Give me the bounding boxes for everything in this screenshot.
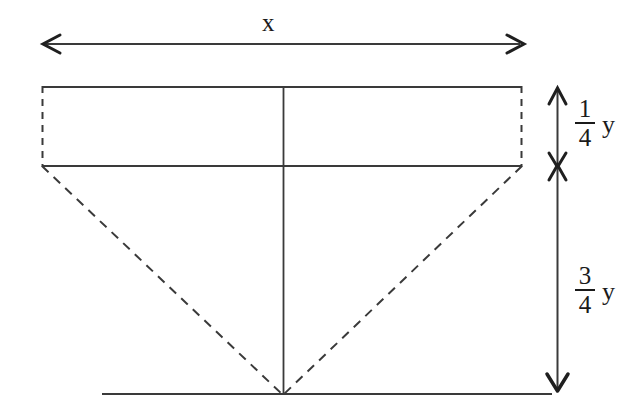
width-dimension-arrow (43, 35, 524, 53)
diagram-canvas: x 1 4 y 3 4 y (0, 0, 640, 420)
width-label-x: x (262, 10, 275, 35)
lower-height-label: 3 4 y (575, 263, 615, 317)
upper-rectangle (42, 86, 522, 167)
triangle-right-side-dashed (283, 166, 522, 395)
diagram-vector-layer (0, 0, 640, 420)
fraction-denominator: 4 (577, 291, 594, 317)
lower-height-variable: y (602, 279, 615, 305)
upper-height-label: 1 4 y (575, 96, 615, 150)
fraction-numerator: 1 (577, 96, 594, 122)
fraction-one-quarter: 1 4 (575, 96, 595, 150)
lower-height-dimension-arrow (547, 165, 568, 392)
fraction-numerator: 3 (577, 263, 594, 289)
fraction-denominator: 4 (577, 124, 594, 150)
inverted-triangle (42, 166, 522, 395)
upper-height-dimension-arrow (549, 88, 566, 167)
triangle-left-side-dashed (42, 166, 283, 395)
upper-height-variable: y (602, 112, 615, 138)
fraction-three-quarters: 3 4 (575, 263, 595, 317)
